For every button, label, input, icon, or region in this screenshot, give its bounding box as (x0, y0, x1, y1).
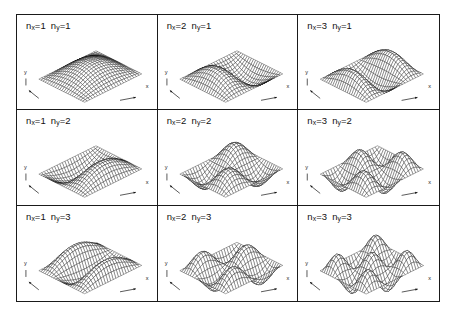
panel-nx3-ny3-nx: nx=3 (307, 211, 327, 222)
panel-nx3-ny1-ny: ny=1 (332, 20, 352, 31)
panel-nx2-ny1-label: nx=2ny=1 (167, 20, 212, 31)
panel-nx1-ny3-y-axis-label: y (24, 260, 27, 266)
panel-nx3-ny2-y-axis-label: y (305, 164, 308, 170)
panel-nx1-ny3-nx-value: =1 (35, 211, 46, 222)
panel-nx2-ny2-x-axis-label: x (287, 179, 290, 185)
panel-nx1-ny2-ny: ny=2 (51, 115, 71, 126)
panel-nx1-ny3-ny-value: =3 (60, 211, 71, 222)
panel-nx2-ny1-ny-value: =1 (200, 20, 211, 31)
panel-nx1-ny3-label: nx=1ny=3 (26, 211, 71, 222)
panel-nx3-ny3-y-axis-arrow (310, 282, 320, 290)
panel-nx1-ny2: nx=1ny=2yx (17, 110, 158, 205)
panel-nx2-ny2-x-axis-arrow (261, 192, 277, 196)
panel-nx1-ny2-label: nx=1ny=2 (26, 115, 71, 126)
panel-nx1-ny2-x-axis-arrow (120, 192, 136, 196)
panel-nx1-ny1-x-axis-arrow (120, 97, 136, 101)
panel-nx1-ny2-x-axis-label: x (146, 179, 149, 185)
panel-nx3-ny3-ny: ny=3 (332, 211, 352, 222)
panel-nx1-ny3-x-axis-label: x (146, 275, 149, 281)
panel-nx3-ny1-x-axis-label: x (428, 83, 431, 89)
panel-nx1-ny3-x-axis-arrow (120, 288, 136, 292)
panel-nx1-ny2-nx: nx=1 (26, 115, 46, 126)
panel-nx3-ny2-x-axis-label: x (428, 179, 431, 185)
panel-nx1-ny2-ny-value: =2 (60, 115, 71, 126)
panel-nx2-ny1: nx=2ny=1yx (158, 15, 299, 110)
panel-nx2-ny2-label: nx=2ny=2 (167, 115, 212, 126)
panel-nx2-ny3-label: nx=2ny=3 (167, 211, 212, 222)
panel-nx1-ny2-y-axis-arrow (29, 186, 39, 194)
panel-nx3-ny2: nx=3ny=2yx (298, 110, 439, 205)
panel-nx3-ny2-ny-value: =2 (341, 115, 352, 126)
panel-nx3-ny2-y-axis-arrow (311, 186, 321, 194)
panel-nx2-ny2-y-axis-label: y (165, 164, 168, 170)
panel-nx3-ny1-y-axis-label: y (305, 69, 308, 75)
panel-nx1-ny1-ny-value: =1 (60, 20, 71, 31)
panel-nx1-ny1-nx-value: =1 (35, 20, 46, 31)
panel-nx1-ny1: nx=1ny=1yx (17, 15, 158, 110)
panel-nx2-ny2-nx-value: =2 (175, 115, 186, 126)
panel-nx2-ny2-y-axis-arrow (170, 186, 180, 194)
panel-nx1-ny1-nx: nx=1 (26, 20, 46, 31)
panel-nx2-ny2-ny-value: =2 (200, 115, 211, 126)
panel-grid: nx=1ny=1yxnx=2ny=1yxnx=3ny=1yxnx=1ny=2yx… (16, 14, 440, 302)
panel-nx2-ny2: nx=2ny=2yx (158, 110, 299, 205)
panel-nx3-ny3-x-axis-label: x (428, 275, 431, 281)
panel-nx3-ny1-x-axis-arrow (402, 97, 418, 101)
panel-nx2-ny1-nx: nx=2 (167, 20, 187, 31)
figure-root: nx=1ny=1yxnx=2ny=1yxnx=3ny=1yxnx=1ny=2yx… (0, 0, 455, 316)
panel-nx2-ny3-ny-value: =3 (200, 211, 211, 222)
panel-nx2-ny1-x-axis-arrow (261, 97, 277, 101)
panel-nx3-ny2-nx-value: =3 (316, 115, 327, 126)
panel-nx2-ny1-ny: ny=1 (192, 20, 212, 31)
panel-nx1-ny2-y-axis-label: y (24, 164, 27, 170)
panel-nx3-ny3-ny-value: =3 (341, 211, 352, 222)
panel-nx2-ny3-nx-value: =2 (175, 211, 186, 222)
panel-nx3-ny1-nx: nx=3 (307, 20, 327, 31)
panel-nx2-ny2-ny: ny=2 (192, 115, 212, 126)
panel-nx3-ny3-label: nx=3ny=3 (307, 211, 352, 222)
panel-nx3-ny3-x-axis-arrow (402, 288, 418, 292)
panel-nx1-ny2-nx-value: =1 (35, 115, 46, 126)
panel-nx2-ny3-y-axis-label: y (165, 260, 168, 266)
panel-nx3-ny1-y-axis-arrow (311, 90, 321, 98)
panel-nx3-ny2-label: nx=3ny=2 (307, 115, 352, 126)
panel-nx3-ny3-nx-value: =3 (316, 211, 327, 222)
panel-nx3-ny2-x-axis-arrow (402, 192, 418, 196)
panel-nx1-ny1-y-axis-label: y (24, 69, 27, 75)
panel-nx2-ny3-x-axis-arrow (261, 288, 277, 292)
panel-nx2-ny3-y-axis-arrow (170, 282, 180, 290)
panel-nx2-ny2-nx: nx=2 (167, 115, 187, 126)
panel-nx3-ny2-nx: nx=3 (307, 115, 327, 126)
panel-nx3-ny3-y-axis-label: y (305, 260, 308, 266)
panel-nx2-ny3-x-axis-label: x (287, 275, 290, 281)
panel-nx3-ny1: nx=3ny=1yx (298, 15, 439, 110)
panel-nx2-ny3-nx: nx=2 (167, 211, 187, 222)
panel-nx1-ny1-y-axis-arrow (29, 90, 39, 98)
panel-nx2-ny3: nx=2ny=3yx (158, 206, 299, 301)
panel-nx3-ny2-ny: ny=2 (332, 115, 352, 126)
panel-nx2-ny1-y-axis-arrow (170, 90, 180, 98)
panel-nx1-ny3-ny: ny=3 (51, 211, 71, 222)
panel-nx1-ny1-label: nx=1ny=1 (26, 20, 71, 31)
panel-nx3-ny1-ny-value: =1 (341, 20, 352, 31)
panel-nx2-ny1-y-axis-label: y (165, 69, 168, 75)
panel-nx1-ny3: nx=1ny=3yx (17, 206, 158, 301)
panel-nx2-ny1-nx-value: =2 (175, 20, 186, 31)
panel-nx3-ny3: nx=3ny=3yx (298, 206, 439, 301)
panel-nx3-ny1-label: nx=3ny=1 (307, 20, 352, 31)
panel-nx3-ny1-nx-value: =3 (316, 20, 327, 31)
panel-nx1-ny1-ny: ny=1 (51, 20, 71, 31)
panel-nx1-ny1-x-axis-label: x (146, 83, 149, 89)
panel-nx1-ny3-y-axis-arrow (29, 282, 39, 290)
panel-nx2-ny1-x-axis-label: x (287, 83, 290, 89)
panel-nx1-ny3-nx: nx=1 (26, 211, 46, 222)
panel-nx2-ny3-ny: ny=3 (192, 211, 212, 222)
